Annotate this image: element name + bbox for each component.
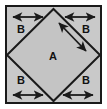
label-region-b-top-left: B bbox=[17, 23, 25, 35]
label-region-a: A bbox=[49, 50, 57, 62]
geometry-figure: A B B B B bbox=[0, 0, 107, 109]
label-region-b-top-right: B bbox=[82, 23, 90, 35]
figure-canvas: A B B B B bbox=[0, 0, 107, 109]
label-region-b-bottom-left: B bbox=[17, 74, 25, 86]
label-region-b-bottom-right: B bbox=[82, 74, 90, 86]
